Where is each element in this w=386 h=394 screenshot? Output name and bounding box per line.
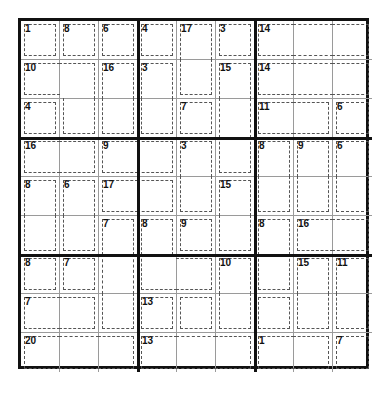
grid-cell-r7c3[interactable] bbox=[99, 255, 138, 294]
grid-cell-r3c7[interactable]: 11 bbox=[255, 99, 294, 138]
grid-cell-r6c5[interactable]: 9 bbox=[177, 216, 216, 255]
grid-cell-r9c8[interactable] bbox=[294, 333, 333, 372]
grid-cell-r4c6[interactable] bbox=[216, 138, 255, 177]
grid-cell-r9c2[interactable] bbox=[60, 333, 99, 372]
grid-cell-r9c1[interactable]: 20 bbox=[21, 333, 60, 372]
grid-cell-r6c2[interactable] bbox=[60, 216, 99, 255]
grid-cell-r2c4[interactable]: 3 bbox=[138, 60, 177, 99]
grid-cell-r8c4[interactable]: 13 bbox=[138, 294, 177, 333]
cage-outline bbox=[63, 215, 95, 251]
grid-cell-r1c5[interactable]: 17 bbox=[177, 21, 216, 60]
grid-cell-r5c9[interactable] bbox=[333, 177, 372, 216]
cage-sum-clue: 7 bbox=[103, 219, 109, 229]
grid-cell-r2c1[interactable]: 10 bbox=[21, 60, 60, 99]
grid-cell-r7c9[interactable]: 11 bbox=[333, 255, 372, 294]
cage-sum-clue: 3 bbox=[142, 63, 148, 73]
grid-cell-r3c9[interactable]: 6 bbox=[333, 99, 372, 138]
grid-cell-r7c5[interactable] bbox=[177, 255, 216, 294]
grid-cell-r4c4[interactable] bbox=[138, 138, 177, 177]
grid-cell-r2c7[interactable]: 14 bbox=[255, 60, 294, 99]
grid-cell-r3c1[interactable]: 4 bbox=[21, 99, 60, 138]
grid-cell-r2c3[interactable]: 16 bbox=[99, 60, 138, 99]
cage-sum-clue: 6 bbox=[64, 180, 70, 190]
cage-outline bbox=[332, 24, 369, 56]
grid-cell-r6c3[interactable]: 7 bbox=[99, 216, 138, 255]
cage-sum-clue: 14 bbox=[259, 24, 270, 34]
cage-sum-clue: 3 bbox=[181, 141, 187, 151]
grid-cell-r8c8[interactable] bbox=[294, 294, 333, 333]
grid-cell-r8c2[interactable] bbox=[60, 294, 99, 333]
grid-cell-r1c6[interactable]: 3 bbox=[216, 21, 255, 60]
grid-cell-r7c2[interactable]: 7 bbox=[60, 255, 99, 294]
grid-cell-r2c9[interactable] bbox=[333, 60, 372, 99]
cage-sum-clue: 8 bbox=[25, 180, 31, 190]
grid-cell-r4c9[interactable]: 6 bbox=[333, 138, 372, 177]
grid-cell-r4c7[interactable]: 8 bbox=[255, 138, 294, 177]
grid-cell-r1c2[interactable]: 8 bbox=[60, 21, 99, 60]
grid-cell-r2c2[interactable] bbox=[60, 60, 99, 99]
grid-cell-r5c8[interactable] bbox=[294, 177, 333, 216]
grid-cell-r2c8[interactable] bbox=[294, 60, 333, 99]
grid-cell-r3c2[interactable] bbox=[60, 99, 99, 138]
grid-cell-r3c6[interactable] bbox=[216, 99, 255, 138]
cage-outline bbox=[219, 98, 251, 138]
box-divider-horizontal bbox=[21, 137, 372, 140]
grid-cell-r6c4[interactable]: 8 bbox=[138, 216, 177, 255]
grid-cell-r9c7[interactable]: 1 bbox=[255, 333, 294, 372]
cage-sum-clue: 6 bbox=[337, 141, 343, 151]
grid-cell-r3c5[interactable]: 7 bbox=[177, 99, 216, 138]
grid-cell-r3c4[interactable] bbox=[138, 99, 177, 138]
grid-cell-r8c1[interactable]: 7 bbox=[21, 294, 60, 333]
grid-cell-r4c1[interactable]: 16 bbox=[21, 138, 60, 177]
grid-cell-r7c1[interactable]: 8 bbox=[21, 255, 60, 294]
cage-outline bbox=[219, 293, 251, 329]
cage-sum-clue: 16 bbox=[25, 141, 36, 151]
grid-cell-r9c4[interactable]: 13 bbox=[138, 333, 177, 372]
cage-sum-clue: 7 bbox=[337, 336, 343, 346]
grid-cell-r7c6[interactable]: 10 bbox=[216, 255, 255, 294]
grid-cell-r8c3[interactable] bbox=[99, 294, 138, 333]
grid-cell-r7c7[interactable] bbox=[255, 255, 294, 294]
grid-cell-r6c8[interactable]: 16 bbox=[294, 216, 333, 255]
grid-cell-r1c1[interactable]: 1 bbox=[21, 21, 60, 60]
grid-cell-r5c4[interactable] bbox=[138, 177, 177, 216]
grid-cell-r1c4[interactable]: 4 bbox=[138, 21, 177, 60]
grid-cell-r9c5[interactable] bbox=[177, 333, 216, 372]
grid-cell-r5c6[interactable]: 15 bbox=[216, 177, 255, 216]
grid-cell-r3c3[interactable] bbox=[99, 99, 138, 138]
grid-cell-r1c7[interactable]: 14 bbox=[255, 21, 294, 60]
cage-sum-clue: 11 bbox=[337, 258, 348, 268]
grid-cell-r9c9[interactable]: 7 bbox=[333, 333, 372, 372]
grid-cell-r8c6[interactable] bbox=[216, 294, 255, 333]
grid-cell-r4c3[interactable]: 9 bbox=[99, 138, 138, 177]
grid-cell-r4c2[interactable] bbox=[60, 138, 99, 177]
grid-cell-r1c3[interactable]: 6 bbox=[99, 21, 138, 60]
cage-outline bbox=[137, 180, 173, 212]
grid-cell-r1c9[interactable] bbox=[333, 21, 372, 60]
cage-sum-clue: 9 bbox=[181, 219, 187, 229]
grid-cell-r5c3[interactable]: 17 bbox=[99, 177, 138, 216]
grid-cell-r5c5[interactable] bbox=[177, 177, 216, 216]
grid-cell-r6c6[interactable] bbox=[216, 216, 255, 255]
grid-cell-r3c8[interactable] bbox=[294, 99, 333, 138]
grid-cell-r2c5[interactable] bbox=[177, 60, 216, 99]
grid-cell-r5c7[interactable] bbox=[255, 177, 294, 216]
grid-cell-r5c2[interactable]: 6 bbox=[60, 177, 99, 216]
grid-cell-r8c5[interactable] bbox=[177, 294, 216, 333]
grid-cell-r5c1[interactable]: 8 bbox=[21, 177, 60, 216]
grid-cell-r8c9[interactable] bbox=[333, 294, 372, 333]
cage-outline bbox=[141, 98, 173, 134]
grid-cell-r4c8[interactable]: 9 bbox=[294, 138, 333, 177]
grid-cell-r9c6[interactable] bbox=[216, 333, 255, 372]
grid-cell-r1c8[interactable] bbox=[294, 21, 333, 60]
grid-cell-r4c5[interactable]: 3 bbox=[177, 138, 216, 177]
grid-cell-r9c3[interactable] bbox=[99, 333, 138, 372]
grid-cell-r6c1[interactable] bbox=[21, 216, 60, 255]
grid-cell-r7c4[interactable] bbox=[138, 255, 177, 294]
grid-cell-r6c9[interactable] bbox=[333, 216, 372, 255]
grid-cell-r7c8[interactable]: 15 bbox=[294, 255, 333, 294]
grid-cell-r2c6[interactable]: 15 bbox=[216, 60, 255, 99]
grid-cell-r6c7[interactable]: 8 bbox=[255, 216, 294, 255]
cage-sum-clue: 8 bbox=[64, 24, 70, 34]
grid-cell-r8c7[interactable] bbox=[255, 294, 294, 333]
